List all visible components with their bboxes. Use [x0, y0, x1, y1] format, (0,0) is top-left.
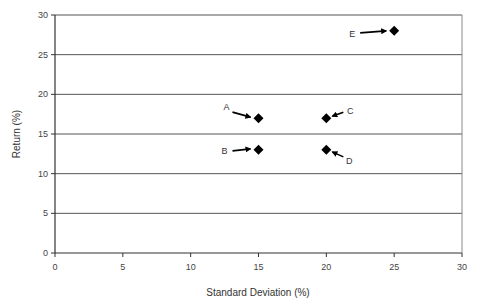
x-axis-ticks: 051015202530	[52, 253, 467, 272]
arrow-icon	[233, 149, 251, 151]
diamond-marker-icon	[321, 145, 331, 155]
y-tick-label: 10	[38, 169, 48, 179]
y-axis-label: Return (%)	[11, 110, 22, 158]
data-point-c: C	[321, 106, 354, 123]
arrow-icon	[332, 112, 343, 116]
y-tick-label: 20	[38, 89, 48, 99]
y-tick-label: 0	[43, 248, 48, 258]
data-point-e: E	[349, 26, 399, 39]
arrow-icon	[332, 152, 343, 157]
x-tick-label: 30	[457, 262, 467, 272]
x-tick-label: 25	[389, 262, 399, 272]
x-tick-label: 10	[186, 262, 196, 272]
diamond-marker-icon	[321, 113, 331, 123]
arrow-icon	[233, 112, 251, 117]
point-label: E	[349, 29, 355, 39]
x-tick-label: 0	[52, 262, 57, 272]
y-tick-label: 15	[38, 129, 48, 139]
diamond-marker-icon	[254, 145, 264, 155]
y-axis-ticks: 051015202530	[38, 10, 55, 258]
data-points: ABCDE	[221, 26, 399, 166]
point-label: C	[347, 106, 354, 116]
x-tick-label: 15	[253, 262, 263, 272]
data-point-b: B	[221, 145, 263, 156]
arrow-icon	[360, 31, 386, 33]
diamond-marker-icon	[389, 26, 399, 36]
x-tick-label: 5	[120, 262, 125, 272]
point-label: D	[346, 156, 353, 166]
data-point-d: D	[321, 145, 353, 166]
data-point-a: A	[223, 102, 263, 123]
point-label: A	[223, 102, 229, 112]
scatter-chart: 051015202530 051015202530 ABCDE Standard…	[0, 0, 477, 307]
point-label: B	[221, 146, 227, 156]
y-tick-label: 5	[43, 208, 48, 218]
x-tick-label: 20	[321, 262, 331, 272]
y-tick-label: 25	[38, 50, 48, 60]
x-axis-label: Standard Deviation (%)	[206, 287, 309, 298]
diamond-marker-icon	[254, 113, 264, 123]
y-tick-label: 30	[38, 10, 48, 20]
